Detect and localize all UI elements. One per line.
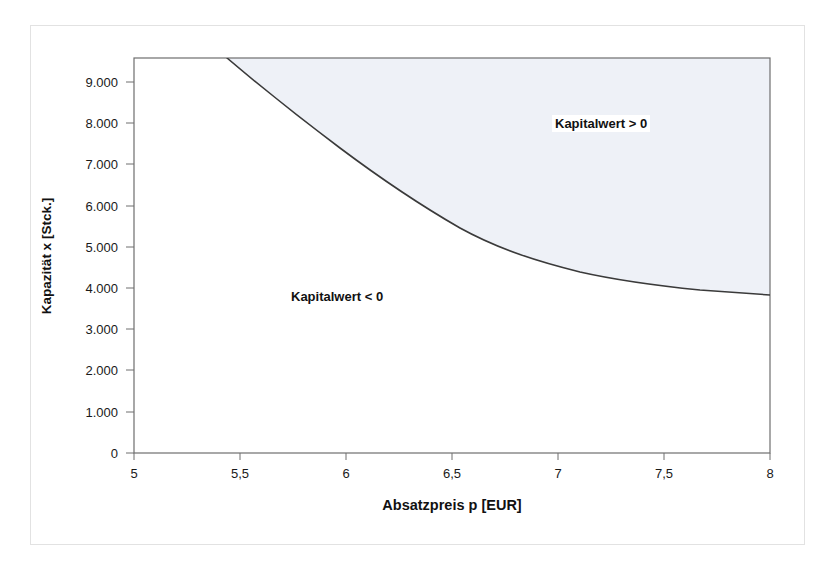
- shaded-region-kapitalwert-positiv: [227, 58, 770, 295]
- y-tick-label: 5.000: [66, 240, 118, 255]
- x-tick-label: 7: [554, 466, 561, 481]
- y-tick-label: 0: [66, 446, 118, 461]
- x-axis-ticks: [134, 453, 770, 460]
- y-tick-label: 2.000: [66, 363, 118, 378]
- x-tick-label: 6,5: [443, 466, 461, 481]
- y-axis-title: Kapazität x [Stck.]: [39, 198, 54, 314]
- x-axis-title: Absatzpreis p [EUR]: [382, 497, 521, 513]
- chart-figure: 0 1.000 2.000 3.000 4.000 5.000 6.000 7.…: [0, 0, 833, 571]
- y-tick-label: 4.000: [66, 281, 118, 296]
- plot-area-svg: [0, 0, 833, 571]
- y-tick-label: 9.000: [66, 75, 118, 90]
- y-axis-ticks: [126, 82, 134, 453]
- annotation-kapitalwert-positive: Kapitalwert > 0: [552, 115, 650, 132]
- x-tick-label: 5,5: [231, 466, 249, 481]
- y-tick-label: 6.000: [66, 199, 118, 214]
- annotation-kapitalwert-negative: Kapitalwert < 0: [288, 288, 386, 305]
- x-tick-label: 6: [342, 466, 349, 481]
- y-tick-label: 8.000: [66, 116, 118, 131]
- y-tick-label: 7.000: [66, 157, 118, 172]
- x-tick-label: 5: [130, 466, 137, 481]
- x-tick-label: 8: [766, 466, 773, 481]
- y-tick-label: 3.000: [66, 322, 118, 337]
- x-tick-label: 7,5: [655, 466, 673, 481]
- y-tick-label: 1.000: [66, 405, 118, 420]
